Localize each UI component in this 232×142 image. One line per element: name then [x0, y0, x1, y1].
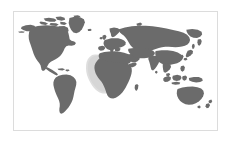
- world-map: [14, 12, 217, 130]
- figure-root: [0, 0, 232, 142]
- map-frame: [13, 11, 218, 131]
